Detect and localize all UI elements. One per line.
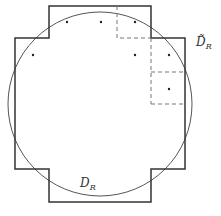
diagram: D̃R DR [0,0,221,216]
grid-dots [32,21,170,90]
circle-label: DR [79,176,96,192]
outer-polygon-label: D̃R [195,34,212,51]
